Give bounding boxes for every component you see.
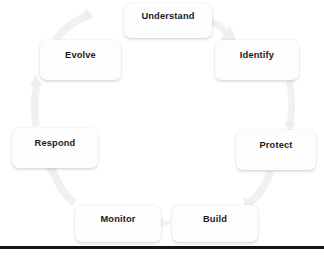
cycle-node-respond-label: Respond xyxy=(35,139,76,148)
cycle-node-evolve-label: Evolve xyxy=(65,51,96,60)
cycle-node-understand[interactable]: Understand xyxy=(124,3,212,38)
cycle-node-monitor[interactable]: Monitor xyxy=(75,205,161,242)
cycle-node-monitor-label: Monitor xyxy=(100,215,135,224)
cycle-node-identify-label: Identify xyxy=(240,51,274,60)
arrow-monitor-to-respond-body xyxy=(50,170,77,206)
diagram-canvas: Understand Identify Protect Build Monito… xyxy=(0,0,324,258)
cycle-node-build[interactable]: Build xyxy=(172,205,258,242)
cycle-node-understand-label: Understand xyxy=(141,12,194,21)
cycle-node-evolve[interactable]: Evolve xyxy=(40,40,121,80)
cycle-node-respond[interactable]: Respond xyxy=(12,128,98,168)
arrow-protect-to-build-body xyxy=(247,170,274,206)
bottom-divider-rule xyxy=(0,246,324,249)
cycle-node-protect-label: Protect xyxy=(259,141,292,150)
cycle-node-identify[interactable]: Identify xyxy=(215,40,299,80)
arrow-identify-to-protect-body xyxy=(286,80,295,127)
arrow-respond-to-evolve-body xyxy=(31,81,41,127)
cycle-node-build-label: Build xyxy=(203,215,227,224)
cycle-node-protect[interactable]: Protect xyxy=(236,130,316,170)
